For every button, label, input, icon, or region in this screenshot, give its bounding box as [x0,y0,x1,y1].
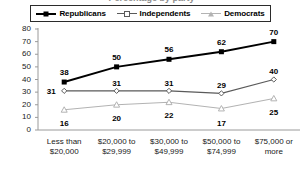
data-point-label: 25 [269,109,278,117]
x-axis-label-line: $49,999 [143,147,195,157]
data-point-label: 31 [47,88,56,96]
data-point-label: 31 [165,80,174,88]
data-point-label: 22 [165,112,174,120]
legend-item-democrats[interactable]: Democrats [196,9,270,18]
x-axis-label-line: $74,999 [195,147,247,157]
data-point-label: 40 [269,68,278,76]
legend-item-independents[interactable]: Independents [111,9,196,18]
independents-legend-swatch [117,13,137,14]
y-axis-tick-label: 70 [11,38,31,46]
data-point-marker [114,64,119,69]
data-point-marker [62,80,67,85]
y-axis-tick-label: 10 [11,113,31,121]
data-point-label: 31 [112,80,121,88]
data-point-label: 50 [112,54,121,62]
line-chart: Percentage by party Republicans Independ… [0,0,303,173]
data-point-marker [167,57,172,62]
x-axis-label-line: more [248,147,300,157]
x-axis-label-line: $30,000 to [143,137,195,147]
y-axis-tick-label: 80 [11,25,31,33]
x-axis-category-labels: Less than$20,000$20,000 to$29,999$30,000… [38,137,300,171]
x-axis-label-line: Less than [38,137,90,147]
data-point-marker [114,88,119,93]
y-axis-tick-label: 40 [11,76,31,84]
x-axis-label-line: $50,000 to [195,137,247,147]
legend-item-republicans[interactable]: Republicans [31,9,111,18]
data-point-label: 29 [217,82,226,90]
data-point-marker [219,49,224,54]
chart-title: Percentage by party [0,0,303,4]
data-point-marker [219,91,224,96]
x-axis-category-label: $50,000 to$74,999 [195,137,247,171]
y-axis-tick-label: 50 [11,63,31,71]
data-point-label: 20 [112,115,121,123]
y-axis-tick-label: 20 [11,101,31,109]
x-axis-category-label: Less than$20,000 [38,137,90,171]
x-axis-label-line: $75,000 or [248,137,300,147]
diamond-marker-icon [124,11,130,17]
x-axis-label-line: $29,999 [90,147,142,157]
chart-legend: Republicans Independents Democrats [30,5,271,22]
x-axis-category-label: $30,000 to$49,999 [143,137,195,171]
y-axis-tick-label: 60 [11,50,31,58]
data-point-label: 17 [217,120,226,128]
data-point-marker [271,95,277,100]
legend-label-democrats: Democrats [224,9,264,18]
data-point-marker [271,77,276,82]
triangle-marker-icon [208,11,214,16]
x-axis-label-line: $20,000 to [90,137,142,147]
y-axis-tick-label: 0 [11,126,31,134]
y-axis-tick-label: 30 [11,88,31,96]
legend-label-republicans: Republicans [59,9,105,18]
republicans-legend-swatch [36,13,56,15]
data-point-marker [62,88,67,93]
data-point-marker [166,88,171,93]
data-point-label: 70 [269,29,278,37]
x-axis-category-label: $75,000 ormore [248,137,300,171]
legend-label-independents: Independents [140,9,191,18]
data-point-label: 56 [165,46,174,54]
plot-area: 01020304050607080 3850566270313131294016… [0,24,303,134]
x-axis-category-label: $20,000 to$29,999 [90,137,142,171]
filled-square-marker-icon [44,11,49,16]
data-point-label: 16 [60,120,69,128]
data-point-marker [271,39,276,44]
x-axis-label-line: $20,000 [38,147,90,157]
data-point-label: 38 [60,69,69,77]
democrats-legend-swatch [201,13,221,14]
data-point-label: 62 [217,39,226,47]
plot-canvas [0,24,303,134]
